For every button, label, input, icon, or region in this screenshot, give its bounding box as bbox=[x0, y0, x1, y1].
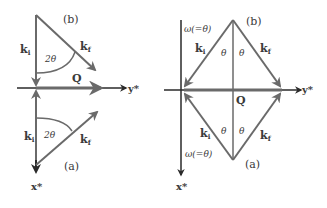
right-omega-label-b: ω(=θ) bbox=[184, 24, 212, 34]
right-x-axis-label: x* bbox=[176, 181, 188, 192]
left-kf-label-a: kf bbox=[80, 133, 92, 147]
right-theta-right-b: θ bbox=[239, 48, 245, 58]
left-ki-label-b: ki bbox=[20, 43, 31, 57]
left-q-label: Q bbox=[72, 72, 82, 85]
left-diagram: (b) ki kf 2θ Q y* ki 2θ kf (a) x* bbox=[17, 13, 140, 192]
left-angle-label-a: 2θ bbox=[43, 130, 56, 140]
right-kf-label-a: kf bbox=[260, 129, 272, 143]
right-kf-label-b: kf bbox=[260, 42, 272, 56]
scattering-geometry-figure: (b) ki kf 2θ Q y* ki 2θ kf (a) x* ω(=θ) … bbox=[0, 0, 327, 208]
right-ki-label-a: ki bbox=[200, 127, 211, 141]
right-q-label: Q bbox=[236, 94, 246, 107]
right-omega-label-a: ω(=θ) bbox=[185, 149, 213, 159]
right-label-b: (b) bbox=[246, 15, 262, 28]
left-y-axis-label: y* bbox=[127, 83, 140, 94]
right-y-axis-label: y* bbox=[301, 84, 314, 95]
right-diagram: ω(=θ) (b) ki θ θ kf Q y* ki θ θ kf ω(=θ)… bbox=[164, 15, 314, 192]
left-label-a: (a) bbox=[64, 160, 79, 173]
left-angle-label-b: 2θ bbox=[44, 54, 57, 64]
left-ki-label-a: ki bbox=[24, 130, 35, 144]
right-label-a: (a) bbox=[245, 158, 260, 171]
left-label-b: (b) bbox=[63, 13, 79, 26]
left-kf-label-b: kf bbox=[80, 40, 92, 54]
left-x-axis-label: x* bbox=[31, 181, 43, 192]
right-theta-left-a: θ bbox=[221, 126, 227, 136]
right-theta-right-a: θ bbox=[239, 126, 245, 136]
right-ki-label-b: ki bbox=[195, 42, 206, 56]
right-theta-left-b: θ bbox=[221, 48, 227, 58]
